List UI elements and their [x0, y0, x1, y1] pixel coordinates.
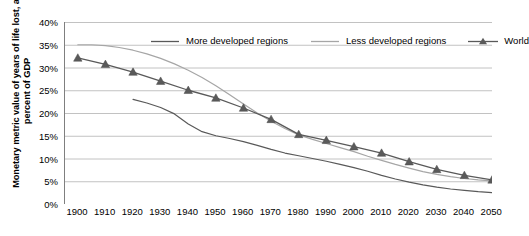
- y-tick-label: 25%: [39, 85, 58, 96]
- x-tick-label: 2010: [370, 206, 391, 217]
- x-tick-label: 2020: [398, 206, 419, 217]
- y-tick-label: 30%: [39, 62, 58, 73]
- x-tick-label: 2030: [425, 206, 446, 217]
- x-tick-label: 2050: [481, 206, 502, 217]
- legend-item[interactable]: World: [468, 36, 529, 46]
- legend-item[interactable]: Less developed regions: [310, 36, 446, 46]
- x-tick-label: 1990: [315, 206, 336, 217]
- legend-line-icon: [150, 36, 180, 46]
- x-tick-label: 1970: [260, 206, 281, 217]
- x-tick-label: 1910: [94, 206, 115, 217]
- legend-item[interactable]: More developed regions: [150, 36, 288, 46]
- x-tick-label: 1940: [177, 206, 198, 217]
- x-tick-label: 2040: [453, 206, 474, 217]
- legend-label: World: [504, 36, 529, 46]
- series-line-1: [78, 45, 492, 181]
- x-tick-label: 1930: [149, 206, 170, 217]
- x-tick-label: 1960: [232, 206, 253, 217]
- x-axis-tick-labels: 1900191019201930194019501960197019801990…: [0, 206, 506, 224]
- x-tick-label: 1900: [66, 206, 87, 217]
- series-line-2: [78, 58, 492, 180]
- x-tick-label: 1980: [287, 206, 308, 217]
- legend-line-icon: [310, 36, 340, 46]
- y-tick-label: 15%: [39, 130, 58, 141]
- y-tick-label: 20%: [39, 108, 58, 119]
- x-tick-label: 1950: [204, 206, 225, 217]
- legend-line-triangle-icon: [468, 36, 498, 46]
- chart-svg: [64, 22, 492, 204]
- chart-legend: More developed regionsLess developed reg…: [150, 33, 529, 49]
- y-tick-label: 40%: [39, 17, 58, 28]
- x-tick-label: 2000: [343, 206, 364, 217]
- y-tick-label: 35%: [39, 39, 58, 50]
- y-axis-tick-labels: 0%5%10%15%20%25%30%35%40%: [0, 0, 62, 236]
- plot-area: [64, 22, 492, 204]
- legend-label: Less developed regions: [346, 36, 446, 46]
- y-tick-label: 10%: [39, 153, 58, 164]
- x-tick-label: 1920: [122, 206, 143, 217]
- series-marker-triangle: [74, 54, 82, 61]
- y-tick-label: 5%: [44, 176, 58, 187]
- legend-label: More developed regions: [186, 36, 288, 46]
